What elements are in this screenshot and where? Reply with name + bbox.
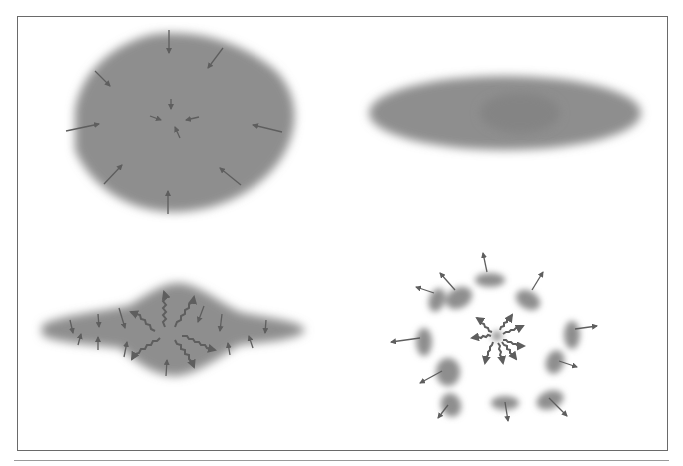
panel-top-right-ellipse xyxy=(369,76,641,150)
diagram-canvas xyxy=(0,0,683,466)
panel-bottom-right-fragments xyxy=(391,253,597,421)
panel-top-left-cloud xyxy=(66,30,294,214)
panel-bottom-left-disk xyxy=(42,283,305,376)
